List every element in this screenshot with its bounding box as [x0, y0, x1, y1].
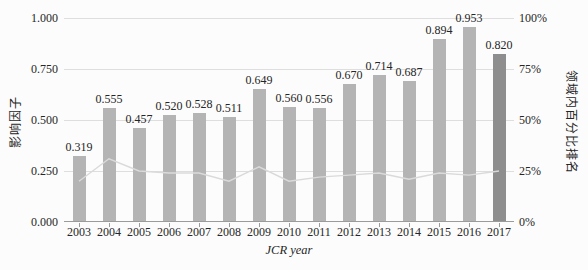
- gridline-0750: [64, 69, 514, 70]
- bar-value-label-2017: 0.820: [477, 38, 521, 53]
- x-tickmark-2012: [349, 223, 350, 227]
- right-axis-tick-50pct: 50%: [519, 113, 565, 127]
- right-axis-tick-75pct: 75%: [519, 62, 565, 76]
- x-tickmark-2010: [289, 223, 290, 227]
- right-axis-tick-0pct: 0%: [519, 215, 565, 229]
- x-tickmark-2009: [259, 223, 260, 227]
- x-tickmark-2016: [469, 223, 470, 227]
- bar-value-label-2004: 0.555: [87, 92, 131, 107]
- x-tick-label-2017: 2017: [477, 225, 521, 240]
- left-axis-tick-0000: 0.000: [20, 215, 58, 229]
- plot-area: 0.3190.5550.4570.5200.5280.5110.6490.560…: [64, 18, 514, 222]
- x-tickmark-2013: [379, 223, 380, 227]
- bar-2005: [133, 128, 146, 221]
- x-tickmark-2008: [229, 223, 230, 227]
- bar-2010: [283, 107, 296, 221]
- bar-2017: [493, 54, 506, 221]
- bar-2011: [313, 108, 326, 221]
- left-axis-tick-0250: 0.250: [20, 164, 58, 178]
- x-tickmark-2004: [109, 223, 110, 227]
- impact-factor-chart: 1.000 0.750 0.500 0.250 0.000 100% 75% 5…: [0, 0, 588, 270]
- bar-2014: [403, 81, 416, 221]
- bar-2012: [343, 84, 356, 221]
- bar-2016: [463, 27, 476, 221]
- x-tickmark-2007: [199, 223, 200, 227]
- left-axis-tick-0500: 0.500: [20, 113, 58, 127]
- bar-value-label-2014: 0.687: [387, 65, 431, 80]
- x-tickmark-2017: [499, 223, 500, 227]
- bar-2009: [253, 89, 266, 221]
- bar-2008: [223, 117, 236, 221]
- bar-2003: [73, 156, 86, 221]
- x-tickmark-2005: [139, 223, 140, 227]
- bar-value-label-2005: 0.457: [117, 112, 161, 127]
- right-axis-tick-25pct: 25%: [519, 164, 565, 178]
- x-tickmark-2003: [79, 223, 80, 227]
- bar-value-label-2011: 0.556: [297, 92, 341, 107]
- bar-2013: [373, 75, 386, 221]
- x-tickmark-2015: [439, 223, 440, 227]
- bar-value-label-2003: 0.319: [57, 140, 101, 155]
- bar-2004: [103, 108, 116, 221]
- bar-value-label-2008: 0.511: [207, 101, 251, 116]
- bar-value-label-2009: 0.649: [237, 73, 281, 88]
- right-axis-tick-100pct: 100%: [519, 11, 565, 25]
- left-axis-tick-0750: 0.750: [20, 62, 58, 76]
- left-axis-tick-1000: 1.000: [20, 11, 58, 25]
- x-tickmark-2014: [409, 223, 410, 227]
- bar-2007: [193, 113, 206, 221]
- x-axis-title: JCR year: [64, 243, 514, 258]
- left-axis-title: 影响因子: [6, 91, 24, 153]
- x-tickmark-2006: [169, 223, 170, 227]
- x-tickmark-2011: [319, 223, 320, 227]
- bar-value-label-2016: 0.953: [447, 11, 491, 26]
- right-axis-title: 领域内百分比排名: [563, 66, 581, 178]
- bar-2006: [163, 115, 176, 221]
- bar-2015: [433, 39, 446, 221]
